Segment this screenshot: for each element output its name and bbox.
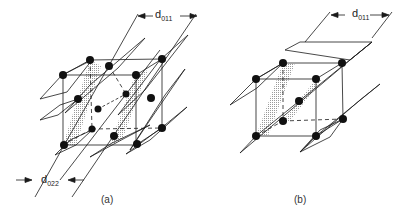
plane-b-top [285, 42, 372, 60]
caption-a: (a) [101, 194, 113, 205]
spacing-label-b-d011: d011 [352, 7, 369, 21]
spacing-label-a-d011: d011 [155, 8, 172, 22]
crystal-plane-diagram [0, 0, 402, 214]
spacing-label-a-d022: d022 [41, 173, 59, 187]
panel-a [35, 14, 196, 197]
caption-b: (b) [294, 194, 306, 205]
plane-b-bottom-right [300, 119, 343, 152]
